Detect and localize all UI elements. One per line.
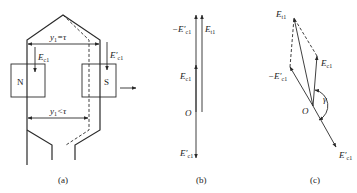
emf-left-label: Ec1 xyxy=(37,52,49,63)
origin-o: O xyxy=(185,108,192,118)
phasor-e-t1 xyxy=(294,18,313,106)
parallelogram-side-right xyxy=(294,18,317,56)
parallelogram-side-left xyxy=(290,18,294,67)
label-e-prime-c1: E′c1 xyxy=(338,150,352,161)
caption-a: (a) xyxy=(58,175,68,185)
panel-a-coil-diagram: N S y1=τ y1<τ Ec1 E′c1 (a) xyxy=(11,15,136,185)
phasor-neg-e-prime-c1 xyxy=(290,67,313,106)
pole-s xyxy=(82,64,116,97)
phasor-e-c1 xyxy=(313,56,317,106)
short-pitch-coil xyxy=(63,15,89,145)
pole-n-label: N xyxy=(17,77,24,87)
phasor-figure: N S y1=τ y1<τ Ec1 E′c1 (a) −E′c xyxy=(0,0,357,193)
full-pitch-label: y1=τ xyxy=(49,32,67,43)
origin-o: O xyxy=(302,106,309,116)
panel-c-phasor-short-pitch: Et1 Ec1 −E′c1 γ O E′c1 (c) xyxy=(268,9,352,185)
label-angle-gamma: γ xyxy=(323,94,327,104)
label-e-c1: Ec1 xyxy=(179,71,191,82)
phasor-e-prime-c1 xyxy=(313,106,336,147)
label-neg-e-prime-c1: −E′c1 xyxy=(172,24,191,35)
label-e-t1: Et1 xyxy=(204,24,215,35)
caption-b: (b) xyxy=(196,175,207,185)
label-e-prime-c1: E′c1 xyxy=(179,148,193,159)
pole-s-label: S xyxy=(104,77,109,87)
emf-right-label: E′c1 xyxy=(109,50,123,61)
caption-c: (c) xyxy=(310,175,320,185)
coil-left-lead xyxy=(27,130,52,160)
panel-b-phasor-full-pitch: −E′c1 Et1 Ec1 O E′c1 (b) xyxy=(172,15,215,185)
label-e-c1: Ec1 xyxy=(320,58,332,69)
short-pitch-label: y1<τ xyxy=(49,106,67,117)
label-e-t1: Et1 xyxy=(275,9,286,20)
label-neg-e-prime-c1: −E′c1 xyxy=(268,71,287,82)
